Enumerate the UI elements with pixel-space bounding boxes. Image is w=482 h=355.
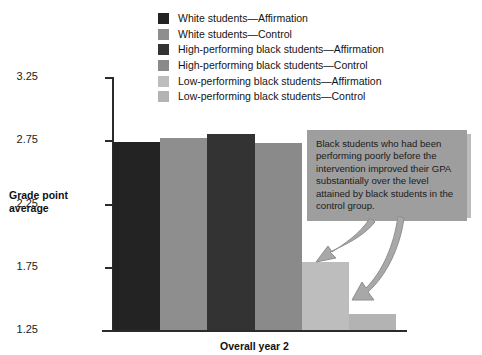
bar [302,262,349,330]
y-axis-ticks: 3.25 2.75 2.25 1.75 1.25 [0,0,112,355]
x-axis-title: Overall year 2 [113,340,396,352]
y-tick-label: 1.75 [0,260,38,272]
legend-swatch-icon [158,13,169,24]
bar [160,138,207,330]
callout-annotation: Black students who had been performing p… [307,130,467,221]
y-axis-title: Grade point average [9,189,91,215]
legend-item: White students—Affirmation [158,11,384,27]
legend-swatch-icon [158,29,169,40]
legend-item-label: White students—Control [178,29,292,40]
legend-item-label: High-performing black students—Affirmati… [178,44,384,55]
legend-item: High-performing black students—Control [158,58,384,74]
legend-item-label: High-performing black students—Control [178,60,368,71]
legend-swatch-icon [158,60,169,71]
bar [113,142,160,330]
legend-swatch-icon [158,44,169,55]
y-tick-label: 1.25 [0,323,38,335]
legend-item: High-performing black students—Affirmati… [158,42,384,58]
bar [255,143,302,330]
legend-item: White students—Control [158,27,384,43]
y-tick-label: 3.25 [0,70,38,82]
legend-item-label: White students—Affirmation [178,13,308,24]
bar-chart-figure: White students—Affirmation White student… [0,0,482,355]
bar [349,314,396,330]
x-axis-line [102,330,407,332]
y-tick-label: 2.75 [0,133,38,145]
bar [207,134,254,330]
